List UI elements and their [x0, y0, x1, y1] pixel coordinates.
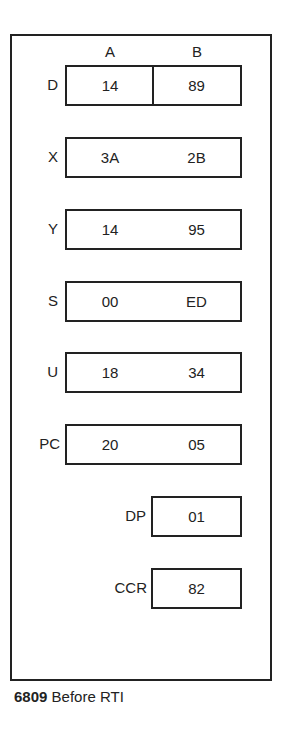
register-pc-high: 20 — [67, 426, 153, 463]
register-label-dp: DP — [110, 507, 146, 525]
column-header-b: B — [182, 44, 212, 60]
register-y: 14 95 — [65, 209, 242, 250]
register-x: 3A 2B — [65, 137, 242, 178]
register-u: 18 34 — [65, 352, 242, 393]
register-x-high: 3A — [67, 139, 153, 176]
register-s: 00 ED — [65, 281, 242, 322]
register-label-d: D — [34, 76, 58, 94]
register-y-high: 14 — [67, 211, 153, 248]
register-label-u: U — [34, 363, 58, 381]
register-s-low: ED — [153, 283, 240, 320]
register-ccr-value: 82 — [153, 570, 240, 607]
caption-number: 6809 — [14, 688, 47, 705]
register-label-x: X — [34, 148, 58, 166]
register-ccr: 82 — [151, 568, 242, 609]
register-u-low: 34 — [153, 354, 240, 391]
register-u-high: 18 — [67, 354, 153, 391]
figure-caption: 6809 Before RTI — [14, 688, 124, 706]
register-label-s: S — [34, 292, 58, 310]
register-label-pc: PC — [30, 435, 60, 453]
register-pc: 20 05 — [65, 424, 242, 465]
register-y-low: 95 — [153, 211, 240, 248]
register-pc-low: 05 — [153, 426, 240, 463]
register-label-ccr: CCR — [100, 579, 147, 597]
register-d-high: 14 — [67, 67, 153, 104]
register-s-high: 00 — [67, 283, 153, 320]
register-label-y: Y — [34, 220, 58, 238]
register-dp: 01 — [151, 496, 242, 537]
register-x-low: 2B — [153, 139, 240, 176]
register-dp-value: 01 — [153, 498, 240, 535]
register-d: 14 89 — [65, 65, 242, 106]
caption-text: Before RTI — [52, 688, 124, 705]
column-header-a: A — [95, 44, 125, 60]
register-d-low: 89 — [153, 67, 240, 104]
